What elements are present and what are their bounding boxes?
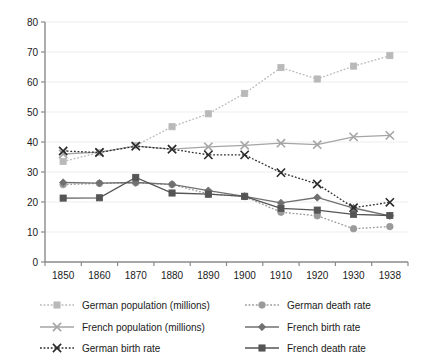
y-tick-label: 40 bbox=[27, 137, 39, 148]
legend-label: German birth rate bbox=[82, 343, 161, 354]
x-tick-label: 1930 bbox=[342, 270, 365, 281]
data-point-marker bbox=[314, 207, 320, 213]
y-tick-label: 60 bbox=[27, 77, 39, 88]
x-tick-label: 1938 bbox=[379, 270, 402, 281]
data-point-marker bbox=[350, 63, 356, 69]
x-tick-label: 1900 bbox=[234, 270, 257, 281]
data-point-marker bbox=[387, 223, 394, 230]
data-point-marker bbox=[205, 111, 211, 117]
y-tick-label: 10 bbox=[27, 227, 39, 238]
data-point-marker bbox=[169, 190, 175, 196]
data-point-marker bbox=[350, 211, 356, 217]
chart-container: 01020304050607080 1850186018701880189019… bbox=[0, 0, 423, 364]
data-point-marker bbox=[169, 124, 175, 130]
data-point-marker bbox=[259, 345, 265, 351]
x-tick-label: 1860 bbox=[88, 270, 111, 281]
legend-label: French population (millions) bbox=[82, 322, 205, 333]
y-tick-label: 30 bbox=[27, 167, 39, 178]
legend-label: French death rate bbox=[287, 343, 366, 354]
data-point-marker bbox=[96, 195, 102, 201]
data-point-marker bbox=[387, 212, 393, 218]
data-point-marker bbox=[60, 195, 66, 201]
x-tick-label: 1850 bbox=[52, 270, 75, 281]
data-point-marker bbox=[387, 53, 393, 59]
legend-label: French birth rate bbox=[287, 322, 361, 333]
data-point-marker bbox=[242, 193, 248, 199]
data-point-marker bbox=[278, 205, 284, 211]
data-point-marker bbox=[242, 90, 248, 96]
y-tick-label: 80 bbox=[27, 17, 39, 28]
x-tick-label: 1880 bbox=[161, 270, 184, 281]
data-point-marker bbox=[60, 158, 66, 164]
legend-label: German population (millions) bbox=[82, 300, 210, 311]
y-axis-tick-labels: 01020304050607080 bbox=[27, 17, 39, 268]
x-tick-label: 1910 bbox=[270, 270, 293, 281]
data-point-marker bbox=[133, 174, 139, 180]
y-tick-label: 50 bbox=[27, 107, 39, 118]
legend-item[interactable]: French birth rate bbox=[245, 322, 361, 333]
x-tick-label: 1920 bbox=[306, 270, 329, 281]
y-tick-label: 20 bbox=[27, 197, 39, 208]
y-tick-label: 70 bbox=[27, 47, 39, 58]
legend-label: German death rate bbox=[287, 300, 371, 311]
data-point-marker bbox=[205, 191, 211, 197]
line-chart: 01020304050607080 1850186018701880189019… bbox=[0, 0, 423, 364]
y-tick-label: 0 bbox=[32, 257, 38, 268]
data-point-marker bbox=[350, 225, 357, 232]
data-point-marker bbox=[314, 76, 320, 82]
x-tick-label: 1890 bbox=[197, 270, 220, 281]
data-point-marker bbox=[278, 65, 284, 71]
data-point-marker bbox=[54, 302, 60, 308]
data-point-marker bbox=[259, 302, 266, 309]
x-tick-label: 1870 bbox=[125, 270, 148, 281]
